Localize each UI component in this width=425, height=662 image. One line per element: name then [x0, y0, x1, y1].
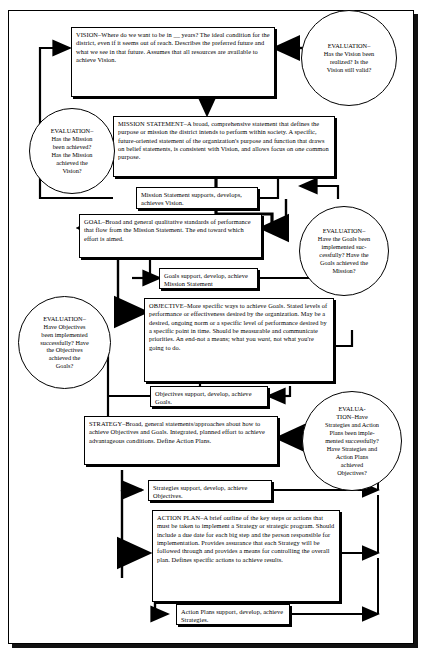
evaluation-objectives-line-6: Goals? — [40, 362, 88, 370]
evaluation-vision-line-3: Vision still valid? — [324, 66, 374, 74]
mission-support-box: Mission Statement supports, develops, ac… — [136, 187, 258, 209]
evaluation-strategies-line-5: Have Strategies and — [325, 445, 379, 453]
evaluation-mission-line-2: been achieved? — [51, 143, 94, 151]
evaluation-objectives-line-5: achieved the — [40, 354, 88, 362]
evaluation-goals-line-3: cessfully? Have the — [318, 251, 370, 259]
evaluation-objectives-line-2: been implemented — [40, 331, 88, 339]
evaluation-strategies-line-4: mented successfully? — [325, 437, 379, 445]
action-plans-support-box: Action Plans support, develop, achieve S… — [176, 604, 290, 625]
strategy-text: STRATEGY–Broad, general statements/appro… — [89, 420, 265, 444]
evaluation-strategies-line-1: TION–Have — [325, 413, 379, 421]
vision-text: VISION–Where do we want to be in __ year… — [76, 31, 270, 63]
strategy-box: STRATEGY–Broad, general statements/appro… — [84, 416, 278, 465]
evaluation-vision-line-0: EVALUATION– — [324, 42, 374, 50]
mission-support-text: Mission Statement supports, develops, ac… — [141, 191, 242, 206]
evaluation-objectives-line-0: EVALUATION– — [40, 315, 88, 323]
evaluation-objectives-line-1: Have Objectives — [40, 323, 88, 331]
evaluation-objectives-line-3: successfully? Have — [40, 339, 88, 347]
strategies-support-text: Strategies support, develop, achieve Obj… — [153, 484, 247, 499]
goal-box: GOAL–Broad and general qualitative stand… — [79, 214, 262, 258]
objective-box: OBJECTIVE–More specific ways to achieve … — [144, 298, 334, 382]
mission-statement-text: MISSION STATEMENT–A broad, comprehensive… — [118, 120, 329, 160]
action-plan-text: ACTION PLAN–A brief outline of the key s… — [157, 514, 334, 563]
evaluation-mission-line-0: EVALUATION– — [51, 127, 94, 135]
evaluation-strategies-circle: EVALUA- TION–Have Strategies and Action … — [302, 391, 402, 491]
evaluation-strategies-line-6: Action Plans — [325, 453, 379, 461]
mission-statement-box: MISSION STATEMENT–A broad, comprehensive… — [113, 116, 335, 177]
vision-box: VISION–Where do we want to be in __ year… — [71, 27, 275, 97]
evaluation-vision-line-1: Has the Vision been — [324, 50, 374, 58]
objectives-support-text: Objectives support, develop, achieve Goa… — [155, 390, 252, 405]
evaluation-objectives-circle: EVALUATION– Have Objectives been impleme… — [18, 296, 111, 389]
evaluation-goals-line-0: EVALUATION– — [318, 227, 370, 235]
evaluation-strategies-line-0: EVALUA- — [325, 405, 379, 413]
goal-text: GOAL–Broad and general qualitative stand… — [84, 218, 251, 242]
evaluation-mission-line-3: Has the Mission — [51, 151, 94, 159]
evaluation-mission-line-4: achieved the — [51, 159, 94, 167]
goals-support-box: Goals support, develop, achieve Mission … — [159, 268, 258, 289]
evaluation-objectives-line-4: the Objectives — [40, 346, 88, 354]
evaluation-strategies-line-3: Plans been imple- — [325, 429, 379, 437]
evaluation-strategies-line-8: Objectives? — [325, 469, 379, 477]
evaluation-goals-line-4: Goals achieved the — [318, 259, 370, 267]
evaluation-mission-line-5: Vision? — [51, 167, 94, 175]
evaluation-goals-line-1: Have the Goals been — [318, 235, 370, 243]
diagram-page: VISION–Where do we want to be in __ year… — [0, 0, 425, 662]
objective-text-italic: want — [257, 335, 270, 342]
evaluation-goals-line-2: implemented suc- — [318, 243, 370, 251]
strategies-support-box: Strategies support, develop, achieve Obj… — [148, 480, 272, 501]
action-plan-box: ACTION PLAN–A brief outline of the key s… — [152, 510, 340, 602]
evaluation-strategies-line-2: Strategies and Action — [325, 421, 379, 429]
evaluation-goals-circle: EVALUATION– Have the Goals been implemen… — [299, 206, 389, 296]
evaluation-strategies-line-7: achieved — [325, 461, 379, 469]
objectives-support-box: Objectives support, develop, achieve Goa… — [150, 386, 268, 407]
evaluation-mission-circle: EVALUATION– Has the Mission been achieve… — [29, 108, 115, 194]
goals-support-text: Goals support, develop, achieve Mission … — [164, 272, 248, 287]
evaluation-mission-line-1: Has the Mission — [51, 135, 94, 143]
action-plans-support-text: Action Plans support, develop, achieve S… — [181, 608, 283, 623]
evaluation-vision-line-2: realized? Is the — [324, 58, 374, 66]
evaluation-vision-circle: EVALUATION– Has the Vision been realized… — [301, 10, 397, 106]
evaluation-goals-line-5: Mission? — [318, 267, 370, 275]
